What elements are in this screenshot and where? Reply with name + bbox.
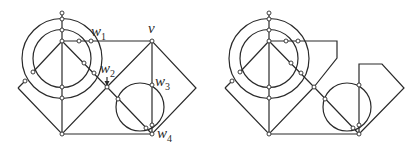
graph-diagram (0, 0, 417, 150)
label-w1: w1 (91, 24, 106, 42)
label-w4: w4 (157, 126, 172, 144)
label-v: v (148, 21, 155, 36)
right-graph (225, 11, 404, 136)
label-w2: w2 (100, 61, 115, 79)
label-w3: w3 (155, 74, 170, 92)
